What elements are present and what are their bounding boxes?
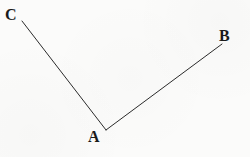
vertex-label-c: C (5, 7, 17, 23)
angle-figure-canvas: C B A (0, 0, 250, 157)
angle-diagram-svg (0, 0, 250, 157)
ray-segment-ab (106, 44, 222, 130)
vertex-label-b: B (219, 28, 230, 44)
vertex-label-a: A (88, 129, 100, 145)
ray-segment-ac (22, 21, 106, 130)
